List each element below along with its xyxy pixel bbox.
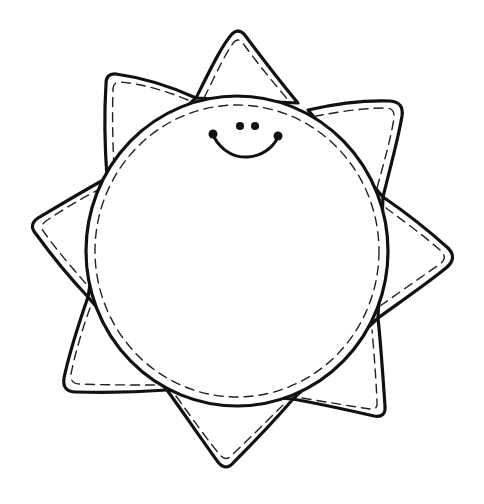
- sun-drawing: [0, 0, 484, 504]
- left-eye-icon: [236, 122, 244, 130]
- ray-top: [196, 31, 298, 103]
- sun-illustration: smiling sun coloring page: [0, 0, 484, 504]
- sun-body: [86, 96, 388, 406]
- right-eye-icon: [251, 122, 259, 130]
